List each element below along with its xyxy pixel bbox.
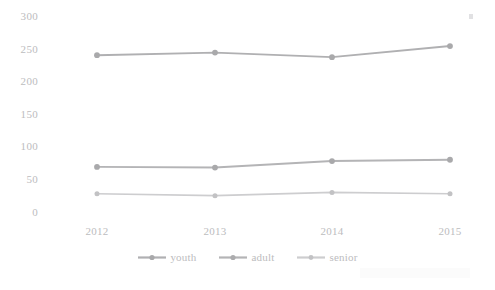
legend-label-senior: senior [329,252,357,263]
data-point[interactable] [95,191,100,196]
data-point[interactable] [213,193,218,198]
chart-legend: youth adult senior [0,252,495,263]
legend-swatch-senior [296,253,326,262]
data-point[interactable] [212,165,218,171]
series-youth [94,43,453,60]
line-chart: 300 250 200 150 100 50 0 2012 2013 2014 … [0,0,495,290]
legend-swatch-adult [218,253,248,262]
data-point[interactable] [212,50,218,56]
series-adult [94,157,453,171]
series-line-senior [97,192,450,195]
series-line-adult [97,160,450,168]
legend-item-senior[interactable]: senior [296,252,357,263]
legend-item-youth[interactable]: youth [137,252,196,263]
data-point[interactable] [94,164,100,170]
legend-swatch-youth [137,253,167,262]
series-line-youth [97,46,450,57]
legend-label-adult: adult [251,252,274,263]
legend-label-youth: youth [170,252,196,263]
data-point[interactable] [94,52,100,58]
series-senior [95,190,453,198]
legend-item-adult[interactable]: adult [218,252,274,263]
scan-artifact [469,14,473,19]
data-point[interactable] [329,54,335,60]
data-point[interactable] [330,190,335,195]
data-point[interactable] [448,191,453,196]
scan-smudge [360,268,470,278]
plot-area [0,0,495,290]
data-point[interactable] [447,43,453,49]
data-point[interactable] [329,158,335,164]
series-layer [94,43,453,198]
data-point[interactable] [447,157,453,163]
